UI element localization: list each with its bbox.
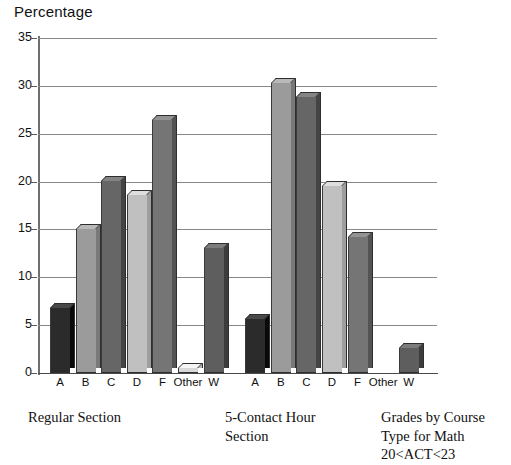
caption-5-contact-hour-section: 5-Contact Hour Section xyxy=(225,408,316,445)
bar-g1-d xyxy=(127,195,147,373)
bar-g1-b xyxy=(76,229,96,373)
bar-side-face xyxy=(291,78,296,368)
bar-g2-f xyxy=(348,237,368,373)
bar-side-face xyxy=(96,224,101,368)
bar-side-face xyxy=(121,176,126,368)
bar-side-face xyxy=(342,181,347,368)
plot-area xyxy=(38,38,437,373)
bar-g2-w xyxy=(399,348,419,373)
bar-g1-c xyxy=(101,181,121,373)
y-axis-tick-labels: 05101520253035 xyxy=(0,30,32,380)
y-tick-mark-10 xyxy=(31,277,37,278)
bar-g2-c xyxy=(296,97,316,373)
bar-g1-w xyxy=(204,248,224,373)
y-tick-label-35: 35 xyxy=(18,31,32,44)
gridline-30 xyxy=(38,86,437,87)
bar-front-face xyxy=(50,308,70,373)
bar-side-face xyxy=(70,303,75,368)
y-tick-mark-25 xyxy=(31,134,37,135)
bar-front-face xyxy=(245,319,265,373)
caption-regular-section: Regular Section xyxy=(28,408,121,427)
y-tick-label-25: 25 xyxy=(18,127,32,140)
y-tick-mark-5 xyxy=(31,325,37,326)
y-tick-mark-30 xyxy=(31,86,37,87)
bar-front-face xyxy=(127,195,147,373)
bar-front-face xyxy=(204,248,224,373)
bar-side-face xyxy=(265,314,270,368)
bar-g2-a xyxy=(245,319,265,373)
y-tick-mark-0 xyxy=(31,373,37,374)
y-tick-label-10: 10 xyxy=(18,270,32,283)
bar-side-face xyxy=(316,92,321,368)
gridline-35 xyxy=(38,38,437,39)
bar-front-face xyxy=(399,348,419,373)
bar-g1-f xyxy=(152,120,172,373)
caption-figure-title: Grades by Course Type for Math 20<ACT<23 xyxy=(381,408,485,464)
bar-side-face xyxy=(224,243,229,368)
bar-front-face xyxy=(271,83,291,373)
y-tick-label-30: 30 xyxy=(18,79,32,92)
bar-front-face xyxy=(296,97,316,373)
gridline-20 xyxy=(38,182,437,183)
chart-root: Percentage 05101520253035 ABCDFOtherWABC… xyxy=(0,0,511,465)
bar-side-face xyxy=(368,232,373,368)
chart-title: Percentage xyxy=(14,3,93,20)
bar-g1-a xyxy=(50,308,70,373)
x-tick-label-g2-w: W xyxy=(384,376,434,389)
bar-top-face xyxy=(204,243,229,248)
bar-side-face xyxy=(147,190,152,368)
y-tick-mark-35 xyxy=(31,38,37,39)
y-tick-label-15: 15 xyxy=(18,222,32,235)
y-tick-mark-20 xyxy=(31,182,37,183)
bar-front-face xyxy=(152,120,172,373)
bar-front-face xyxy=(322,186,342,373)
bar-g2-b xyxy=(271,83,291,373)
gridline-25 xyxy=(38,134,437,135)
y-tick-label-20: 20 xyxy=(18,175,32,188)
bar-front-face xyxy=(348,237,368,373)
bar-g2-d xyxy=(322,186,342,373)
bar-front-face xyxy=(76,229,96,373)
bar-front-face xyxy=(101,181,121,373)
y-tick-mark-15 xyxy=(31,229,37,230)
x-axis-line xyxy=(38,373,438,374)
bar-side-face xyxy=(172,115,177,368)
